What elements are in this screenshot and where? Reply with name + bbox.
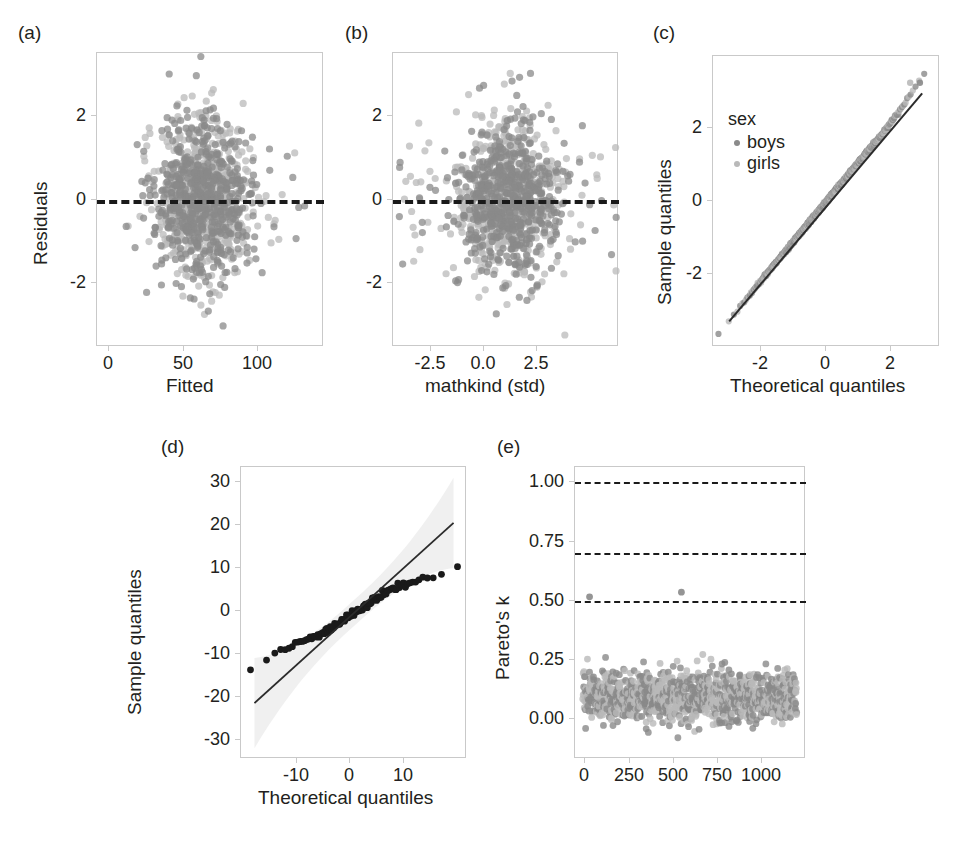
panel-c-ytick-mark <box>707 273 712 274</box>
panel-e-xtick-label: 750 <box>702 765 732 786</box>
panel-b-label: (b) <box>345 22 368 44</box>
panel-d-ylabel: Sample quantiles <box>124 569 146 715</box>
panel-e-ytick-mark <box>569 659 574 660</box>
panel-d-xlabel: Theoretical quantiles <box>258 787 433 809</box>
panel-d-ytick-mark <box>235 481 240 482</box>
legend-dot-boys-icon <box>734 140 740 146</box>
panel-d-label: (d) <box>161 436 184 458</box>
panel-c-label: (c) <box>653 22 675 44</box>
panel-d-ytick-mark <box>235 696 240 697</box>
panel-c-xtick-mark <box>825 346 826 351</box>
legend-item-girls[interactable]: girls <box>728 153 785 174</box>
panel-d-xtick-mark <box>296 758 297 763</box>
legend-sex: sex boys girls <box>728 109 785 174</box>
panel-b-xtick-mark <box>430 346 431 351</box>
panel-a-xtick-mark <box>108 346 109 351</box>
panel-d-ytick-label: 10 <box>178 557 230 578</box>
panel-b-ytick-mark <box>387 115 392 116</box>
panel-d-ytick-label: -30 <box>178 729 230 750</box>
panel-e-ytick-mark <box>569 600 574 601</box>
panel-e-xtick-mark <box>673 758 674 763</box>
panel-e-label: (e) <box>497 436 520 458</box>
panel-d-ytick-mark <box>235 739 240 740</box>
legend-item-boys[interactable]: boys <box>728 132 785 153</box>
panel-e-xtick-label: 0 <box>579 765 589 786</box>
panel-b-ytick-mark <box>387 282 392 283</box>
panel-e-threshold-0p5 <box>575 601 806 603</box>
panel-d-xtick-mark <box>403 758 404 763</box>
panel-e-ytick-mark <box>569 541 574 542</box>
panel-d-ytick-mark <box>235 524 240 525</box>
panel-c-xtick-mark <box>890 346 891 351</box>
legend-dot-girls-icon <box>734 161 740 167</box>
panel-a-xtick-label: 0 <box>103 353 113 374</box>
panel-e-threshold-0p7 <box>575 553 806 555</box>
legend-label-girls: girls <box>747 153 780 174</box>
panel-c-xtick-label: -2 <box>752 353 768 374</box>
panel-c-xtick-label: 2 <box>885 353 895 374</box>
panel-d-ytick-label: 0 <box>178 600 230 621</box>
panel-e-xtick-label: 500 <box>658 765 688 786</box>
panel-a-zero-line <box>97 200 324 204</box>
panel-a-label: (a) <box>18 22 41 44</box>
panel-e-plot-area <box>574 466 805 758</box>
panel-b-ytick-label: -2 <box>346 272 382 293</box>
panel-e-xtick-label: 250 <box>614 765 644 786</box>
panel-a-ytick-label: 0 <box>50 189 86 210</box>
panel-d-ytick-mark <box>235 567 240 568</box>
panel-c-scatter <box>713 56 940 347</box>
panel-a-ytick-label: 2 <box>50 105 86 126</box>
panel-e-ytick-label: 0.50 <box>500 590 564 611</box>
panel-c-plot-area: sex boys girls <box>712 55 939 346</box>
panel-b-ytick-mark <box>387 199 392 200</box>
panel-b-ytick-label: 2 <box>346 105 382 126</box>
panel-d-xtick-label: 10 <box>393 765 413 786</box>
panel-e-ytick-label: 0.00 <box>500 708 564 729</box>
panel-d-ytick-label: 20 <box>178 514 230 535</box>
legend-title: sex <box>728 109 785 130</box>
panel-b-xtick-mark <box>483 346 484 351</box>
panel-c-ytick-mark <box>707 127 712 128</box>
panel-e-ytick-mark <box>569 718 574 719</box>
panel-e-threshold-1 <box>575 482 806 484</box>
panel-d-ytick-label: 30 <box>178 471 230 492</box>
figure-caption <box>18 833 948 844</box>
panel-c-xtick-label: 0 <box>820 353 830 374</box>
panel-a-xtick-label: 100 <box>242 353 272 374</box>
panel-a-xtick-mark <box>257 346 258 351</box>
panel-c-ytick-label: 0 <box>666 190 702 211</box>
panel-b-xtick-label: 2.5 <box>523 353 548 374</box>
panel-e-xtick-mark <box>717 758 718 763</box>
panel-d-xtick-label: 0 <box>344 765 354 786</box>
panel-c-xtick-mark <box>760 346 761 351</box>
panel-b-xtick-label: -2.5 <box>414 353 445 374</box>
panel-d-xtick-mark <box>349 758 350 763</box>
panel-a-ytick-label: -2 <box>50 272 86 293</box>
panel-a-plot-area <box>96 52 323 346</box>
panel-e-ytick-label: 0.25 <box>500 649 564 670</box>
panel-a-ytick-mark <box>91 199 96 200</box>
panel-b-xlabel: mathkind (std) <box>425 375 545 397</box>
panel-a-xlabel: Fitted <box>166 375 214 397</box>
panel-e-xtick-mark <box>629 758 630 763</box>
panel-c-ytick-mark <box>707 200 712 201</box>
panel-b-zero-line <box>393 200 619 204</box>
panel-b-xtick-label: 0.0 <box>470 353 495 374</box>
panel-d-ytick-mark <box>235 610 240 611</box>
panel-d-xtick-label: -10 <box>283 765 309 786</box>
panel-e-xtick-mark <box>761 758 762 763</box>
panel-d-ytick-mark <box>235 653 240 654</box>
figure-panel-grid: (a) Residuals Fitted 2 0 -2 0 50 100 (b)… <box>0 0 965 844</box>
panel-c-ytick-label: 2 <box>666 117 702 138</box>
panel-a-xtick-label: 50 <box>173 353 193 374</box>
panel-e-xtick-mark <box>584 758 585 763</box>
panel-a-ytick-mark <box>91 115 96 116</box>
panel-a-xtick-mark <box>183 346 184 351</box>
panel-b-ytick-label: 0 <box>346 189 382 210</box>
panel-a-ytick-mark <box>91 282 96 283</box>
panel-c-xlabel: Theoretical quantiles <box>730 375 905 397</box>
panel-e-scatter <box>575 467 806 759</box>
panel-e-xtick-label: 1000 <box>741 765 781 786</box>
panel-b-xtick-mark <box>536 346 537 351</box>
panel-e-ytick-label: 0.75 <box>500 531 564 552</box>
